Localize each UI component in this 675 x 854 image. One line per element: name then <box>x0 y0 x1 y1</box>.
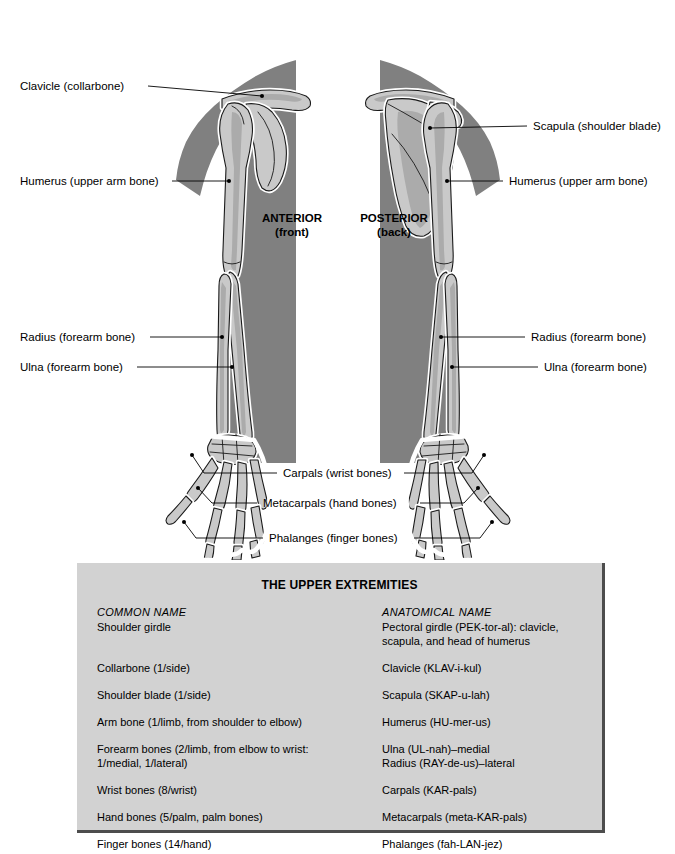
column-header-anatomical-name: ANATOMICAL NAME <box>382 606 492 618</box>
table-row: Shoulder blade (1/side) Scapula (SKAP-u-… <box>77 688 602 706</box>
cell-common-name: Collarbone (1/side) <box>97 661 382 675</box>
callout-scapula-right: Scapula (shoulder blade) <box>533 120 661 133</box>
callout-clavicle-left: Clavicle (collarbone) <box>20 80 124 93</box>
table-row: Shoulder girdle Pectoral girdle (PEK-tor… <box>77 620 602 652</box>
callout-radius-left: Radius (forearm bone) <box>20 331 135 344</box>
callout-humerus-left: Humerus (upper arm bone) <box>20 175 159 188</box>
cell-anatomical-name: Carpals (KAR-pals) <box>382 783 597 797</box>
cell-anatomical-name: Ulna (UL-nah)–medial Radius (RAY-de-us)–… <box>382 742 597 770</box>
orientation-label-anterior: ANTERIOR (front) <box>250 211 334 239</box>
callout-ulna-left: Ulna (forearm bone) <box>20 361 123 374</box>
cell-common-name: Shoulder girdle <box>97 620 382 634</box>
orientation-posterior-line1: POSTERIOR <box>349 211 439 225</box>
orientation-anterior-line2: (front) <box>250 225 334 239</box>
callout-phalanges-center: Phalanges (finger bones) <box>269 532 398 545</box>
cell-common-name: Shoulder blade (1/side) <box>97 688 382 702</box>
table-row: Collarbone (1/side) Clavicle (KLAV-i-kul… <box>77 661 602 679</box>
orientation-label-posterior: POSTERIOR (back) <box>349 211 439 239</box>
table-row: Hand bones (5/palm, palm bones) Metacarp… <box>77 810 602 828</box>
table-title: THE UPPER EXTREMITIES <box>77 578 602 592</box>
cell-common-name: Hand bones (5/palm, palm bones) <box>97 810 382 824</box>
callout-carpals-center: Carpals (wrist bones) <box>283 467 392 480</box>
table-row: Finger bones (14/hand) Phalanges (fah-LA… <box>77 837 602 854</box>
cell-anatomical-name: Clavicle (KLAV-i-kul) <box>382 661 597 675</box>
cell-anatomical-name: Scapula (SKAP-u-lah) <box>382 688 597 702</box>
cell-common-name: Forearm bones (2/limb, from elbow to wri… <box>97 742 382 770</box>
callout-metacarpals-center: Metacarpals (hand bones) <box>263 497 397 510</box>
cell-anatomical-name: Humerus (HU-mer-us) <box>382 715 597 729</box>
cell-anatomical-name: Phalanges (fah-LAN-jez) <box>382 837 597 851</box>
cell-anatomical-name: Pectoral girdle (PEK-tor-al): clavicle, … <box>382 620 597 648</box>
table-rows: Shoulder girdle Pectoral girdle (PEK-tor… <box>77 620 602 854</box>
cell-anatomical-name: Metacarpals (meta-KAR-pals) <box>382 810 597 824</box>
orientation-anterior-line1: ANTERIOR <box>250 211 334 225</box>
column-header-common-name: COMMON NAME <box>97 606 186 618</box>
callout-humerus-right: Humerus (upper arm bone) <box>509 175 648 188</box>
upper-extremities-table: THE UPPER EXTREMITIES COMMON NAME ANATOM… <box>77 563 605 833</box>
table-row: Wrist bones (8/wrist) Carpals (KAR-pals) <box>77 783 602 801</box>
cell-common-name: Wrist bones (8/wrist) <box>97 783 382 797</box>
callout-radius-right: Radius (forearm bone) <box>531 331 646 344</box>
table-row: Arm bone (1/limb, from shoulder to elbow… <box>77 715 602 733</box>
callout-ulna-right: Ulna (forearm bone) <box>544 361 647 374</box>
table-row: Forearm bones (2/limb, from elbow to wri… <box>77 742 602 774</box>
cell-common-name: Arm bone (1/limb, from shoulder to elbow… <box>97 715 382 729</box>
orientation-posterior-line2: (back) <box>349 225 439 239</box>
cell-common-name: Finger bones (14/hand) <box>97 837 382 851</box>
